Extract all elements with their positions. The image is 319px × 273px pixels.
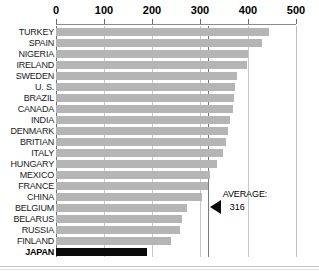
bar-russia — [56, 226, 180, 234]
bar-sweden — [56, 72, 237, 80]
gridline-500 — [296, 26, 297, 257]
category-label-india: INDIA — [0, 115, 54, 126]
category-label-belgium: BELGIUM — [0, 203, 54, 214]
bar-brazil — [56, 94, 234, 102]
category-label-u-s: U. S. — [0, 82, 54, 93]
category-axis-labels: TURKEYSPAINNIGERIAIRELANDSWEDENU. S.BRAZ… — [0, 26, 54, 257]
bar-italy — [56, 149, 223, 157]
category-label-ireland: IRELAND — [0, 60, 54, 71]
x-axis-tick-label-400: 400 — [239, 4, 257, 16]
category-label-canada: CANADA — [0, 104, 54, 115]
bar-turkey — [56, 28, 269, 36]
bar-finland — [56, 237, 171, 245]
average-annotation: AVERAGE: 316 — [210, 189, 280, 223]
category-label-mexico: MEXICO — [0, 170, 54, 181]
x-axis-tick-label-0: 0 — [53, 4, 59, 16]
category-label-spain: SPAIN — [0, 38, 54, 49]
bar-belgium — [56, 204, 187, 212]
bar-india — [56, 116, 230, 124]
x-axis-tick-label-200: 200 — [143, 4, 161, 16]
x-axis-tick-mark-0 — [56, 19, 57, 24]
category-label-denmark: DENMARK — [0, 126, 54, 137]
average-arrow-icon — [210, 200, 221, 214]
category-label-belarus: BELARUS — [0, 214, 54, 225]
bar-u-s — [56, 83, 235, 91]
category-label-sweden: SWEDEN — [0, 71, 54, 82]
bar-nigeria — [56, 50, 248, 58]
bar-hungary — [56, 160, 217, 168]
x-axis-tick-label-500: 500 — [287, 4, 305, 16]
category-label-nigeria: NIGERIA — [0, 49, 54, 60]
x-axis-tick-label-300: 300 — [191, 4, 209, 16]
category-label-finland: FINLAND — [0, 236, 54, 247]
bar-denmark — [56, 127, 228, 135]
x-axis-tick-labels: 0100200300400500 — [0, 4, 319, 18]
bar-ireland — [56, 61, 247, 69]
category-label-china: CHINA — [0, 192, 54, 203]
category-label-france: FRANCE — [0, 181, 54, 192]
bar-japan — [56, 248, 147, 256]
bar-spain — [56, 39, 262, 47]
x-axis-tick-mark-200 — [152, 19, 153, 24]
bar-belarus — [56, 215, 182, 223]
x-axis-rule — [56, 24, 296, 25]
bar-britian — [56, 138, 226, 146]
x-axis-tick-mark-400 — [248, 19, 249, 24]
category-label-hungary: HUNGARY — [0, 159, 54, 170]
average-value: 316 — [230, 202, 245, 212]
x-axis-tick-label-100: 100 — [95, 4, 113, 16]
category-label-brazil: BRAZIL — [0, 93, 54, 104]
category-label-russia: RUSSIA — [0, 225, 54, 236]
x-axis-tick-mark-300 — [200, 19, 201, 24]
bar-china — [56, 193, 202, 201]
x-axis-tick-mark-100 — [104, 19, 105, 24]
category-label-japan: JAPAN — [0, 247, 54, 258]
bottom-divider-secondary — [0, 269, 319, 270]
bar-chart: 0100200300400500 TURKEYSPAINNIGERIAIRELA… — [0, 0, 319, 273]
category-label-italy: ITALY — [0, 148, 54, 159]
bar-canada — [56, 105, 233, 113]
category-label-turkey: TURKEY — [0, 27, 54, 38]
average-label: AVERAGE: — [223, 189, 268, 199]
bar-france — [56, 182, 208, 190]
category-label-britian: BRITIAN — [0, 137, 54, 148]
bar-mexico — [56, 171, 210, 179]
bottom-divider — [0, 266, 319, 267]
x-axis-tick-mark-500 — [296, 19, 297, 24]
